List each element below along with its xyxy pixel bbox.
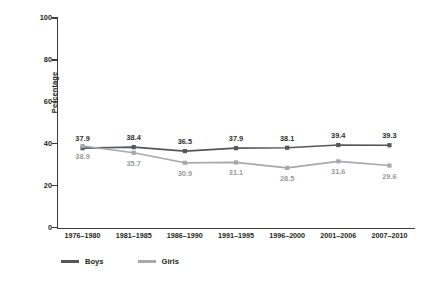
data-label-boys-5: 39.4	[316, 132, 360, 139]
data-label-girls-5: 31.6	[316, 168, 360, 175]
data-label-boys-2: 36.5	[163, 138, 207, 145]
y-axis-tick-label: 40	[12, 140, 52, 147]
data-point-marker	[132, 151, 136, 155]
x-axis-tick-label-6: 2007–2010	[360, 232, 418, 239]
data-point-marker	[285, 146, 289, 150]
y-axis-tick-label: 0	[12, 224, 52, 231]
legend-item-girls[interactable]: Girls	[138, 258, 179, 266]
legend-swatch-icon	[138, 260, 156, 263]
data-label-girls-0: 38.9	[61, 153, 105, 160]
data-label-girls-4: 28.5	[265, 175, 309, 182]
data-label-boys-4: 38.1	[265, 135, 309, 142]
data-label-boys-1: 38.4	[112, 134, 156, 141]
y-axis-tick-label: 100	[12, 14, 52, 21]
data-point-marker	[183, 149, 187, 153]
y-axis-tick-label: 20	[12, 182, 52, 189]
y-axis-tick-label: 80	[12, 56, 52, 63]
chart-legend: BoysGirls	[57, 258, 179, 266]
y-axis-tick	[52, 17, 58, 18]
x-axis-tick-label-0: 1976–1980	[54, 232, 112, 239]
data-label-girls-1: 35.7	[112, 160, 156, 167]
line-chart: Percentage 100806040200 37.938.436.537.9…	[0, 0, 426, 289]
data-point-marker	[336, 143, 340, 147]
data-point-marker	[336, 159, 340, 163]
data-point-marker	[80, 144, 84, 148]
x-axis-tick-label-2: 1986–1990	[156, 232, 214, 239]
legend-label: Boys	[85, 258, 104, 266]
data-point-marker	[234, 160, 238, 164]
y-axis-tick-label: 60	[12, 98, 52, 105]
data-point-marker	[132, 145, 136, 149]
y-axis-tick	[52, 185, 58, 186]
y-axis-line	[57, 18, 58, 229]
data-label-girls-2: 30.9	[163, 170, 207, 177]
legend-swatch-icon	[61, 260, 79, 263]
data-point-marker	[234, 146, 238, 150]
legend-label: Girls	[162, 258, 179, 266]
x-axis-tick-label-1: 1981–1985	[105, 232, 163, 239]
data-label-girls-3: 31.1	[214, 169, 258, 176]
y-axis-tick	[52, 101, 58, 102]
data-point-marker	[387, 143, 391, 147]
data-label-boys-6: 39.3	[367, 132, 411, 139]
data-label-boys-3: 37.9	[214, 135, 258, 142]
x-axis-tick-label-4: 1996–2000	[258, 232, 316, 239]
data-label-boys-0: 37.9	[61, 135, 105, 142]
x-axis-tick-label-3: 1991–1995	[207, 232, 265, 239]
y-axis-tick	[52, 59, 58, 60]
plot-area	[0, 0, 426, 289]
data-label-girls-6: 29.6	[367, 173, 411, 180]
x-axis-line	[57, 228, 415, 229]
legend-item-boys[interactable]: Boys	[61, 258, 104, 266]
data-point-marker	[387, 163, 391, 167]
data-point-marker	[80, 146, 84, 150]
data-point-marker	[183, 161, 187, 165]
y-axis-tick	[52, 143, 58, 144]
y-axis-tick	[52, 227, 58, 228]
x-axis-tick-label-5: 2001–2006	[309, 232, 367, 239]
series-line-boys	[83, 145, 390, 151]
data-point-marker	[285, 166, 289, 170]
